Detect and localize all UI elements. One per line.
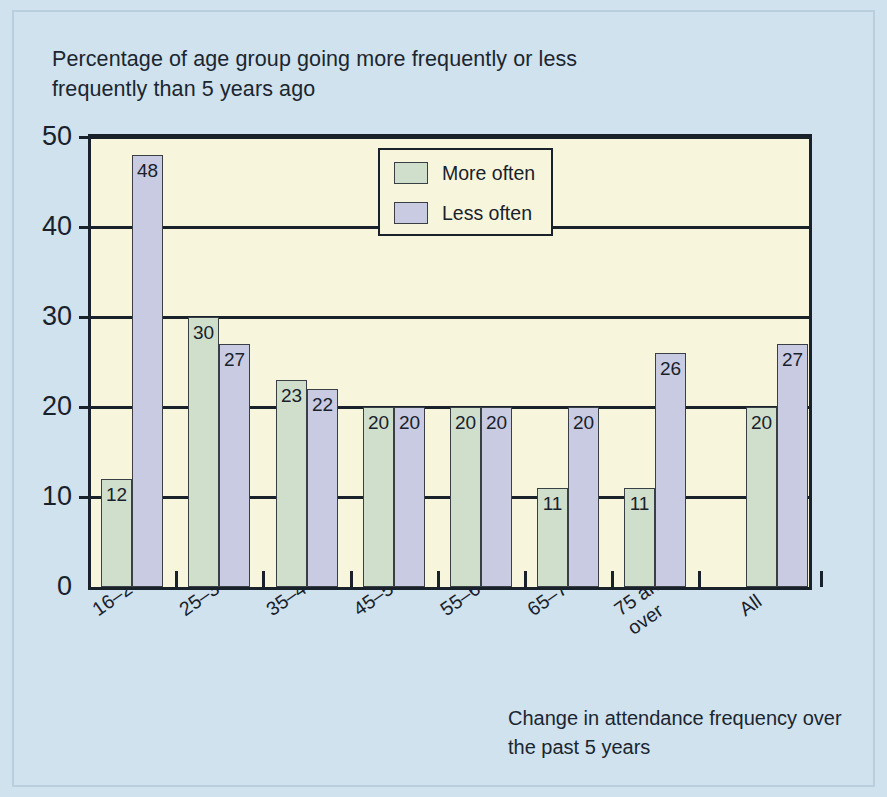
- bar-less-6: 26: [655, 353, 686, 587]
- x-axis-tick-4: [524, 571, 527, 587]
- chart-title: Percentage of age group going more frequ…: [52, 44, 612, 104]
- x-axis-tick-7: [820, 571, 823, 587]
- chart-figure: Percentage of age group going more frequ…: [0, 0, 887, 797]
- bar-value-label: 20: [482, 412, 511, 433]
- y-axis-tick-label-30: 30: [12, 303, 72, 330]
- bar-value-label: 22: [308, 394, 337, 415]
- bar-less-1: 27: [219, 344, 250, 587]
- x-axis-category-label-7: All: [735, 590, 766, 621]
- x-axis-tick-2: [350, 571, 353, 587]
- bar-value-label: 12: [102, 484, 131, 505]
- legend-swatch-less-often: [394, 202, 428, 224]
- x-axis-tick-5: [611, 571, 614, 587]
- bar-less-3: 20: [394, 407, 425, 587]
- chart-caption: Change in attendance frequency over the …: [508, 704, 858, 762]
- bar-more-0: 12: [101, 479, 132, 587]
- bar-more-2: 23: [276, 380, 307, 587]
- bar-more-4: 20: [450, 407, 481, 587]
- y-axis-tick-label-20: 20: [12, 393, 72, 420]
- bar-more-1: 30: [188, 317, 219, 587]
- legend-swatch-more-often: [394, 162, 428, 184]
- x-axis-tick-0: [175, 571, 178, 587]
- bar-value-label: 23: [277, 385, 306, 406]
- x-axis-tick-6: [698, 571, 701, 587]
- y-axis-tick-mark-30: [79, 316, 90, 319]
- bar-value-label: 26: [656, 358, 685, 379]
- bar-value-label: 20: [364, 412, 393, 433]
- bar-value-label: 11: [625, 493, 654, 514]
- x-axis-tick-3: [437, 571, 440, 587]
- y-axis-tick-mark-20: [79, 406, 90, 409]
- bar-less-2: 22: [307, 389, 338, 587]
- bar-value-label: 20: [395, 412, 424, 433]
- bar-more-3: 20: [363, 407, 394, 587]
- bar-value-label: 20: [747, 412, 776, 433]
- chart-legend: More often Less often: [378, 148, 553, 236]
- bar-more-6: 11: [624, 488, 655, 587]
- bar-value-label: 20: [569, 412, 598, 433]
- bar-value-label: 30: [189, 322, 218, 343]
- bar-value-label: 27: [220, 349, 249, 370]
- y-axis-tick-label-50: 50: [12, 123, 72, 150]
- bar-value-label: 11: [538, 493, 567, 514]
- y-axis-tick-mark-50: [79, 136, 90, 139]
- gridline-50: [91, 136, 809, 139]
- legend-label-more-often: More often: [442, 160, 535, 186]
- bar-value-label: 27: [778, 349, 807, 370]
- bar-more-5: 11: [537, 488, 568, 587]
- legend-label-less-often: Less often: [442, 200, 532, 226]
- x-axis-tick-1: [262, 571, 265, 587]
- y-axis-tick-label-40: 40: [12, 213, 72, 240]
- bar-less-4: 20: [481, 407, 512, 587]
- bar-value-label: 20: [451, 412, 480, 433]
- bar-value-label: 48: [133, 160, 162, 181]
- y-axis-tick-mark-40: [79, 226, 90, 229]
- y-axis-tick-mark-10: [79, 496, 90, 499]
- bar-more-7: 20: [746, 407, 777, 587]
- bar-less-7: 27: [777, 344, 808, 587]
- bar-less-0: 48: [132, 155, 163, 587]
- y-axis-tick-label-10: 10: [12, 483, 72, 510]
- y-axis-tick-label-0: 0: [12, 573, 72, 600]
- bar-less-5: 20: [568, 407, 599, 587]
